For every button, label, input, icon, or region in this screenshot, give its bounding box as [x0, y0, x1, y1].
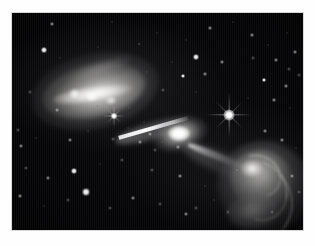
field-star [50, 22, 53, 25]
field-star [250, 33, 253, 36]
field-star [247, 97, 250, 100]
field-star [220, 60, 224, 64]
field-star [128, 107, 131, 110]
field-star [161, 141, 164, 144]
radio-lobe-southwest-arc-1 [227, 147, 289, 206]
star-core [224, 110, 235, 121]
astronomical-image-plate [12, 13, 303, 230]
field-star [158, 202, 161, 205]
radio-lobe-southwest-arc-2 [219, 150, 299, 230]
field-star [131, 196, 135, 200]
field-star [185, 39, 188, 42]
field-star [138, 140, 142, 144]
field-star [55, 108, 58, 111]
field-star [193, 54, 198, 59]
field-star [28, 90, 31, 93]
field-star [194, 206, 197, 209]
emission-knot-ne-1 [68, 89, 81, 98]
field-star [19, 144, 23, 148]
radio-lobe-northeast-outer [23, 39, 167, 142]
radio-lobe-southwest-tail [224, 192, 280, 230]
radio-lobe-northeast-inner [38, 55, 151, 127]
field-star [262, 78, 267, 83]
field-star [161, 88, 164, 91]
field-star [203, 72, 207, 76]
field-star [267, 44, 270, 47]
host-galaxy-nucleus [168, 126, 190, 141]
field-star [127, 127, 130, 130]
field-star [297, 73, 300, 76]
counter-jet-southwest [187, 141, 247, 171]
diffraction-spike [103, 116, 125, 117]
field-star [18, 194, 21, 197]
diffraction-spike [228, 92, 229, 138]
field-star [99, 163, 102, 166]
field-star [235, 168, 238, 171]
field-star [290, 174, 294, 178]
field-star [153, 148, 156, 151]
field-star [87, 130, 90, 133]
field-star [82, 188, 89, 195]
star-core [111, 113, 117, 119]
jet-northeast [118, 116, 188, 140]
field-star [280, 138, 283, 141]
field-star [71, 168, 78, 175]
field-star [213, 199, 216, 202]
field-star [198, 151, 201, 154]
field-star [43, 205, 46, 208]
field-star [171, 61, 174, 64]
field-star [111, 137, 114, 140]
field-star [148, 132, 151, 135]
field-star [108, 206, 111, 209]
emission-wisp-ne-top [63, 51, 135, 88]
field-star [274, 58, 278, 62]
field-star [184, 212, 189, 217]
field-star [97, 46, 100, 49]
radio-lobe-southwest-arc-3 [226, 164, 295, 230]
radio-lobe-northeast-bright-ridge [51, 79, 135, 110]
hotspot-southwest [240, 159, 264, 178]
field-star [204, 185, 207, 188]
field-star [297, 190, 300, 193]
field-star [120, 158, 123, 161]
emission-knot-ne-3 [104, 97, 118, 104]
bright-star-with-diffraction-spikes [206, 92, 252, 138]
field-star [138, 43, 141, 46]
emission-knot-ne-2 [84, 93, 100, 101]
radio-lobe-southwest-outer [205, 129, 303, 230]
field-star [35, 137, 38, 140]
field-star [150, 168, 153, 171]
field-star [208, 26, 211, 29]
diffraction-spike [107, 109, 120, 122]
small-star-with-diffraction-spikes [103, 105, 125, 127]
field-star [96, 105, 99, 108]
field-star [59, 57, 62, 60]
diffraction-spike [114, 105, 115, 127]
field-star [24, 166, 27, 169]
field-star [178, 174, 182, 178]
field-star [111, 21, 114, 24]
diffraction-spike [215, 101, 243, 129]
page-root [0, 0, 315, 246]
field-star [289, 107, 292, 110]
field-star [143, 121, 146, 124]
field-star [284, 84, 287, 87]
field-star [272, 98, 275, 101]
field-star [226, 210, 229, 213]
field-star [41, 47, 46, 52]
field-star [156, 32, 159, 35]
field-star [146, 71, 149, 74]
field-star [232, 21, 235, 24]
field-star [255, 189, 258, 192]
field-star [176, 145, 180, 149]
field-star [287, 67, 290, 70]
field-star [249, 205, 252, 208]
field-star [293, 50, 297, 54]
field-star [251, 56, 254, 59]
field-star [286, 32, 289, 35]
radio-lobe-southwest-inner [224, 143, 299, 215]
diffraction-spike [215, 101, 243, 129]
field-star [66, 198, 69, 201]
host-galaxy-halo [148, 110, 211, 158]
diffraction-spike [107, 109, 120, 122]
